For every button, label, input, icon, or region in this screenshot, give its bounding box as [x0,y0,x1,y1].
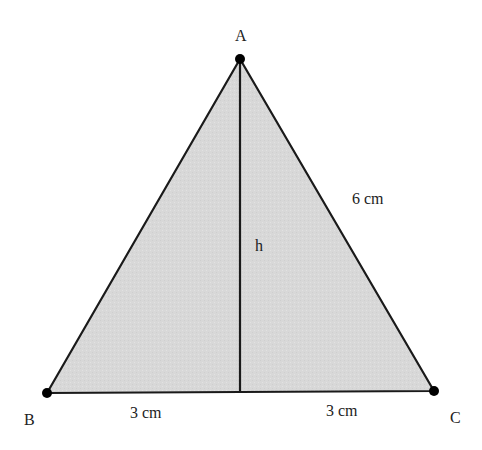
triangle-diagram [0,0,482,450]
base-left-measurement: 3 cm [130,405,162,421]
vertex-b-point [42,388,52,398]
side-ac-measurement: 6 cm [352,191,384,207]
vertex-c-label: C [450,410,461,426]
vertex-a-point [235,54,245,64]
vertex-b-label: B [24,412,35,428]
altitude-label: h [255,238,263,254]
base-right-measurement: 3 cm [326,403,358,419]
vertex-c-point [429,386,439,396]
vertex-a-label: A [235,28,247,44]
